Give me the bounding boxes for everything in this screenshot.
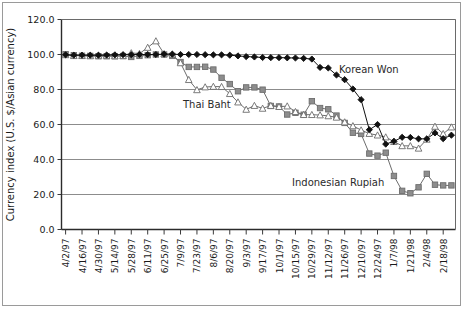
data-point-square [260, 87, 265, 92]
x-tick-label: 6/25/97 [160, 239, 170, 274]
x-tick-label: 1/7/98 [389, 238, 399, 267]
data-point-square [194, 64, 199, 69]
x-tick-label: 4/16/97 [78, 239, 88, 274]
annotation-indonesian-rupiah: Indonesian Rupiah [292, 177, 384, 188]
x-tick-label: 7/23/97 [192, 239, 202, 274]
data-point-square [243, 85, 248, 90]
annotation-thai-baht: Thai Baht [182, 99, 231, 110]
x-tick-label: 6/11/97 [143, 239, 153, 274]
data-point-square [416, 185, 421, 190]
data-point-square [424, 171, 429, 176]
y-tick-label: 80.0 [33, 84, 54, 95]
data-point-square [317, 105, 322, 110]
data-point-square [285, 112, 290, 117]
data-point-square [383, 150, 388, 155]
x-tick-label: 10/1/97 [275, 239, 285, 274]
y-tick-label: 20.0 [33, 189, 54, 200]
data-point-square [211, 67, 216, 72]
y-tick-label: 40.0 [33, 154, 54, 165]
x-tick-label: 1/21/98 [406, 238, 416, 273]
data-point-square [252, 85, 257, 90]
x-tick-label: 7/9/97 [176, 239, 186, 268]
data-point-square [219, 75, 224, 80]
data-point-square [375, 153, 380, 158]
x-tick-label: 8/6/97 [209, 239, 219, 268]
data-point-square [408, 191, 413, 196]
data-point-square [449, 183, 454, 188]
x-tick-label: 5/14/97 [110, 239, 120, 274]
x-tick-label: 2/4/98 [422, 238, 432, 267]
x-tick-label: 11/26/97 [340, 239, 350, 279]
x-tick-label: 10/15/97 [291, 239, 301, 279]
x-tick-label: 2/18/98 [439, 238, 449, 273]
y-tick-label: 100.0 [27, 49, 54, 60]
data-point-square [235, 89, 240, 94]
x-tick-label: 8/20/97 [225, 239, 235, 274]
data-point-square [367, 151, 372, 156]
annotation-korean-won: Korean Won [339, 64, 399, 75]
x-tick-label: 9/3/97 [242, 239, 252, 268]
chart-figure: 0.020.040.060.080.0100.0120.04/2/974/16/… [0, 0, 465, 310]
currency-index-line-chart: 0.020.040.060.080.0100.0120.04/2/974/16/… [0, 0, 465, 310]
y-tick-label: 120.0 [27, 14, 54, 25]
x-tick-label: 5/28/97 [127, 239, 137, 274]
data-point-square [399, 188, 404, 193]
data-point-square [202, 64, 207, 69]
data-point-square [227, 81, 232, 86]
data-point-square [391, 173, 396, 178]
x-tick-label: 11/12/97 [324, 239, 334, 279]
y-tick-label: 0.0 [39, 224, 54, 235]
y-axis-title: Currency index (U.S. $/Asian currency) [5, 28, 16, 222]
data-point-square [432, 182, 437, 187]
x-tick-label: 4/2/97 [61, 239, 71, 268]
x-tick-label: 4/30/97 [94, 239, 104, 274]
data-point-square [440, 183, 445, 188]
y-tick-label: 60.0 [33, 119, 54, 130]
x-tick-label: 12/10/97 [357, 239, 367, 279]
data-point-square [186, 64, 191, 69]
x-tick-label: 9/17/97 [258, 239, 268, 274]
data-point-square [350, 130, 355, 135]
x-axis-ticks: 4/2/974/16/974/30/975/14/975/28/976/11/9… [61, 230, 449, 279]
x-tick-label: 10/29/97 [307, 239, 317, 279]
data-point-square [309, 99, 314, 104]
data-point-square [326, 107, 331, 112]
x-tick-label: 12/24/97 [373, 239, 383, 279]
